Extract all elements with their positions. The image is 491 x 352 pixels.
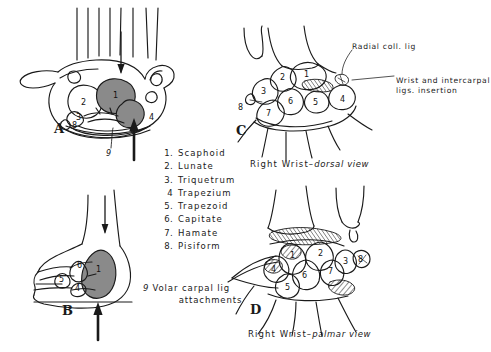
panel-letter-a: A (54, 122, 65, 135)
panel-b-bone-number: 6 (77, 262, 82, 270)
panel-c-bone-number: 6 (288, 98, 293, 106)
legend-footnote: 9 Volar carpal lig attachments (143, 283, 268, 305)
panel-d-bone-number: 8 (358, 256, 363, 264)
legend-number: 2. (160, 161, 178, 171)
panel-b-bone-number: 1 (96, 266, 101, 274)
panel-c-caption-view: dorsal view (314, 159, 369, 169)
legend-footnote-line2: attachments (143, 295, 268, 305)
legend-number: 1. (160, 148, 178, 158)
legend-label: Trapezium (178, 188, 232, 198)
legend-number: 6. (160, 214, 178, 224)
panel-b-arrow-down (102, 196, 109, 234)
legend-item: 8. Pisiform (160, 241, 235, 251)
panel-c-bone-number: 3 (261, 88, 266, 96)
panel-d-caption: Right Wrist–palmar view (248, 330, 371, 339)
legend-label: Triquetrum (178, 175, 235, 185)
legend-label: Scaphoid (178, 148, 226, 158)
bone-legend: 1. Scaphoid 2. Lunate 3. Triquetrum 4 Tr… (160, 148, 235, 254)
panel-c-bone-number: 7 (266, 110, 271, 118)
panel-c-bone-number: 1 (304, 71, 309, 79)
panel-c-bone-number: 2 (280, 74, 285, 82)
panel-d-caption-prefix: Right Wrist (248, 329, 307, 339)
panel-d-caption-view: palmar view (312, 329, 371, 339)
panel-a-bone-number: 1 (113, 92, 118, 100)
legend-item: 1. Scaphoid (160, 148, 235, 158)
panel-b-bone-number: 4 (75, 285, 80, 293)
panel-letter-b: B (62, 304, 74, 317)
annotation-wrist-intercarpal-ligs-line1: Wrist and intercarpal (396, 76, 490, 86)
panel-c-bone-number: 4 (340, 96, 345, 104)
legend-item: 7. Hamate (160, 228, 235, 238)
legend-item: 2. Lunate (160, 161, 235, 171)
panel-d-bone-number: 2 (318, 250, 323, 258)
legend-item: 4 Trapezium (160, 188, 235, 198)
panel-a-bone-number: 2 (81, 99, 86, 107)
legend-label: Hamate (178, 228, 218, 238)
panel-a-bone-number: 8 (72, 122, 77, 130)
panel-c-caption: Right Wrist–dorsal view (250, 160, 369, 169)
panel-b-bone-number: 5 (59, 276, 64, 284)
panel-c-bone-number: 8 (238, 104, 243, 112)
annotation-wrist-intercarpal-ligs-line2: ligs. insertion (396, 86, 458, 96)
panel-d-bone-number: 6 (302, 272, 307, 280)
legend-footnote-number: 9 (143, 283, 148, 293)
annotation-radial-collateral-ligament: Radial coll. lig (352, 42, 416, 52)
legend-label: Pisiform (178, 241, 221, 251)
panel-a-callout-number: 9 (106, 150, 111, 158)
panel-d-bone-number: 1 (290, 252, 295, 260)
panel-c-bone-number: 5 (313, 99, 318, 107)
legend-item: 6. Capitate (160, 214, 235, 224)
legend-label: Trapezoid (178, 201, 229, 211)
legend-item: 5. Trapezoid (160, 201, 235, 211)
wrist-anatomy-figure: A B C D 2 3 8 1 4 9 6 5 4 1 2 1 3 6 5 4 … (0, 0, 491, 352)
panel-d-bone-number: 3 (343, 258, 348, 266)
legend-number: 7. (160, 228, 178, 238)
panel-c-caption-prefix: Right Wrist (250, 159, 309, 169)
legend-number: 8. (160, 241, 178, 251)
legend-footnote-line1: Volar carpal lig (152, 283, 230, 293)
panel-letter-c: C (236, 124, 247, 137)
panel-b-art (33, 190, 132, 308)
legend-number: 3. (160, 175, 178, 185)
panel-a-bone-number: 4 (149, 114, 154, 122)
panel-d-bone-number: 5 (285, 284, 290, 292)
legend-label: Capitate (178, 214, 223, 224)
panel-d-bone-number: 7 (328, 268, 333, 276)
legend-number: 5. (160, 201, 178, 211)
legend-item: 3. Triquetrum (160, 175, 235, 185)
legend-number: 4 (160, 188, 178, 198)
panel-d-bone-number: 4 (271, 266, 276, 274)
legend-label: Lunate (178, 161, 214, 171)
panel-a-arrow-down (117, 32, 124, 74)
